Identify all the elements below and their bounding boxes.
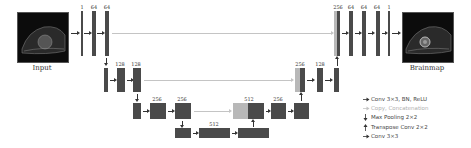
channel-label: 64: [87, 5, 101, 10]
conv-arrow: [127, 80, 132, 81]
channel-label: 64: [357, 5, 371, 10]
legend-label: Copy, Concatenation: [371, 105, 428, 111]
conv-arrow: [355, 33, 360, 34]
input-label: Input: [12, 64, 72, 72]
channel-label: 64: [100, 5, 114, 10]
legend-label: Transpose Conv 2×2: [371, 124, 428, 130]
brainmap-image: [402, 12, 454, 63]
channel-label: 256: [331, 5, 345, 10]
skip-connection-l3: [194, 111, 230, 112]
channel-label: 128: [313, 62, 327, 67]
feature-map: [248, 103, 264, 119]
arrow-right-light-icon: [362, 104, 370, 113]
conv-arrow: [266, 111, 269, 112]
feature-map: [349, 11, 353, 56]
legend: Conv 3×3, BN, ReLU Copy, Concatenation M…: [362, 95, 428, 141]
feature-map: [334, 68, 339, 92]
legend-item: Conv 3×3, BN, ReLU: [362, 95, 428, 104]
maxpool-arrow: [137, 94, 138, 100]
transpose-conv-arrow: [253, 121, 254, 127]
channel-label: 512: [242, 97, 256, 102]
conv-arrow: [325, 80, 331, 81]
conv-arrow: [143, 111, 148, 112]
arrow-right-icon: [362, 95, 370, 104]
conv-arrow: [368, 33, 373, 34]
channel-label: 512: [207, 122, 221, 127]
arrow-up-icon: [362, 123, 370, 132]
feature-map: [317, 68, 323, 92]
feature-map: [199, 128, 230, 138]
mri-scan-output: [403, 13, 453, 62]
brainmap-label: Brainmap: [397, 64, 457, 72]
legend-item: Conv 3×3: [362, 132, 428, 141]
conv-arrow: [307, 80, 313, 81]
feature-map: [175, 103, 191, 119]
conv-arrow: [232, 133, 236, 134]
feature-map: [81, 11, 83, 56]
transpose-conv-arrow: [337, 58, 338, 66]
feature-map: [388, 11, 390, 56]
feature-map: [117, 68, 125, 92]
conv-arrow: [84, 33, 90, 34]
feature-map: [376, 11, 380, 56]
feature-map: [300, 68, 305, 92]
conv-arrow-output: [392, 33, 399, 34]
skip-connection-l2: [144, 80, 292, 81]
feature-map: [150, 103, 166, 119]
legend-label: Conv 3×3: [371, 133, 398, 139]
input-image: [17, 12, 69, 63]
maxpool-arrow: [182, 121, 183, 126]
legend-item: Max Pooling 2×2: [362, 113, 428, 122]
conv-arrow: [168, 111, 173, 112]
legend-item: Transpose Conv 2×2: [362, 123, 428, 132]
channel-label: 256: [293, 62, 307, 67]
feature-map: [271, 103, 286, 119]
skip-connection-l1: [112, 33, 332, 34]
channel-label: 128: [113, 62, 127, 67]
conv-arrow: [110, 80, 115, 81]
conv-arrow: [97, 33, 103, 34]
copied-feature-map: [233, 103, 248, 119]
conv-arrow: [342, 33, 347, 34]
maxpool-arrow: [106, 58, 107, 64]
conv-arrow: [382, 33, 386, 34]
transpose-conv-arrow: [301, 94, 302, 101]
arrow-right-icon: [362, 132, 370, 141]
channel-label: 128: [129, 62, 143, 67]
mri-scan-input: [18, 13, 68, 62]
feature-map: [175, 128, 191, 138]
channel-label: 256: [271, 97, 285, 102]
feature-map: [337, 11, 340, 56]
channel-label: 256: [150, 97, 164, 102]
channel-label: 1: [382, 5, 396, 10]
arrow-input: [71, 33, 78, 34]
conv-arrow: [193, 133, 197, 134]
feature-map: [133, 68, 141, 92]
feature-map: [104, 68, 108, 92]
channel-label: 64: [344, 5, 358, 10]
feature-map: [92, 11, 96, 56]
channel-label: 256: [175, 97, 189, 102]
legend-label: Conv 3×3, BN, ReLU: [371, 96, 427, 102]
feature-map: [294, 103, 309, 119]
feature-map: [362, 11, 366, 56]
conv-arrow: [288, 111, 292, 112]
feature-map: [133, 103, 141, 119]
legend-label: Max Pooling 2×2: [371, 114, 417, 120]
feature-map: [105, 11, 109, 56]
legend-item: Copy, Concatenation: [362, 104, 428, 113]
arrow-down-icon: [362, 113, 370, 122]
feature-map: [238, 128, 269, 138]
